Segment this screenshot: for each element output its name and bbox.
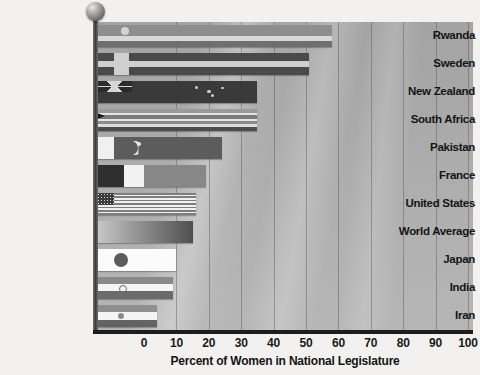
x-tick-40: 40 bbox=[267, 336, 280, 350]
flag-stripe bbox=[97, 305, 157, 312]
x-tick-80: 80 bbox=[397, 336, 410, 350]
flag-stripe bbox=[97, 320, 157, 327]
flag-band bbox=[97, 137, 114, 159]
flag-canton-union-jack bbox=[97, 81, 132, 92]
category-label-south-africa: South Africa bbox=[388, 113, 480, 125]
category-label-iran: Iran bbox=[388, 309, 480, 321]
bar-south-africa bbox=[97, 109, 257, 131]
x-tick-70: 70 bbox=[364, 336, 377, 350]
flag-emblem bbox=[114, 253, 128, 267]
x-tick-100: 100 bbox=[458, 336, 477, 350]
flag-canton-stars bbox=[97, 193, 114, 205]
category-label-world-average: World Average bbox=[388, 225, 480, 237]
bar-pakistan bbox=[97, 137, 222, 159]
x-tick-20: 20 bbox=[202, 336, 215, 350]
flag-emblem bbox=[221, 87, 224, 90]
x-tick-60: 60 bbox=[332, 336, 345, 350]
flag-stripe bbox=[97, 41, 332, 46]
category-label-new-zealand: New Zealand bbox=[388, 85, 480, 97]
bar-japan bbox=[97, 249, 176, 271]
category-label-pakistan: Pakistan bbox=[388, 141, 480, 153]
bar-france bbox=[97, 165, 206, 187]
bar-iran bbox=[97, 305, 157, 327]
bar-united-states bbox=[97, 193, 196, 215]
x-tick-30: 30 bbox=[235, 336, 248, 350]
flag-stripe bbox=[97, 312, 157, 319]
flag-stripe bbox=[97, 213, 196, 215]
flag-emblem bbox=[195, 86, 198, 89]
flag-stripe bbox=[97, 25, 332, 36]
flag-emblem bbox=[121, 27, 129, 35]
x-axis-title: Percent of Women in National Legislature bbox=[97, 354, 473, 368]
bar-world-average bbox=[97, 221, 193, 243]
category-label-india: India bbox=[388, 281, 480, 293]
flag-stripe bbox=[97, 291, 173, 298]
flag-emblem bbox=[207, 90, 211, 94]
category-label-japan: Japan bbox=[388, 253, 480, 265]
axis-knob-sphere-icon bbox=[86, 2, 105, 21]
category-label-sweden: Sweden bbox=[388, 57, 480, 69]
flag-stripe bbox=[97, 67, 309, 75]
flag-triangle bbox=[97, 113, 105, 119]
x-axis-line bbox=[93, 330, 473, 334]
x-tick-0: 0 bbox=[141, 336, 147, 350]
flag-emblem bbox=[211, 94, 214, 97]
flag-band bbox=[97, 165, 124, 187]
bar-india bbox=[97, 277, 173, 299]
y-axis-spine bbox=[93, 18, 98, 332]
flag-stripe bbox=[97, 284, 173, 291]
bar-rwanda bbox=[97, 25, 332, 47]
category-label-rwanda: Rwanda bbox=[388, 29, 480, 41]
flag-stripe bbox=[97, 277, 173, 284]
flag-band bbox=[124, 165, 144, 187]
bar-new-zealand bbox=[97, 81, 257, 103]
flag-emblem bbox=[118, 313, 124, 319]
bar-sweden bbox=[97, 53, 309, 75]
category-label-united-states: United States bbox=[388, 197, 480, 209]
category-label-france: France bbox=[388, 169, 480, 181]
x-tick-90: 90 bbox=[429, 336, 442, 350]
flag-stripe bbox=[97, 53, 309, 61]
x-tick-10: 10 bbox=[170, 336, 183, 350]
flag-stripe bbox=[97, 127, 257, 131]
flag-cross bbox=[114, 53, 129, 75]
flag-band bbox=[144, 165, 206, 187]
bar-chart: RwandaSwedenNew ZealandSouth AfricaPakis… bbox=[0, 0, 480, 375]
x-tick-50: 50 bbox=[300, 336, 313, 350]
